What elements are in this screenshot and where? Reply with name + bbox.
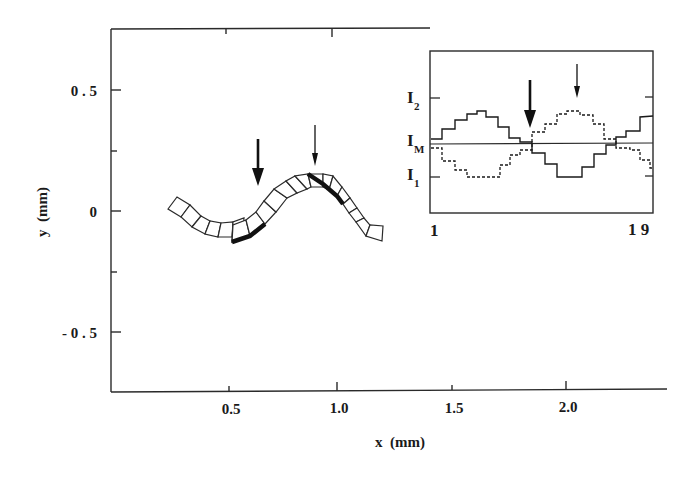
x-axis-line [111, 389, 667, 392]
top-border-line [111, 28, 430, 29]
segment-chain [168, 174, 383, 242]
inset-x-end-label: 1 9 [628, 220, 649, 239]
thick-arrow-head-icon [252, 168, 264, 186]
x-tick-label-2.0: 2.0 [559, 399, 578, 415]
x-tick-label-1.5: 1.5 [445, 400, 464, 416]
inset-label-IM: I [407, 131, 414, 150]
y-tick-label-0.5: 0 . 5 [71, 83, 97, 99]
segment [366, 225, 383, 241]
segment [218, 222, 233, 237]
y-tick-label-0: 0 [90, 204, 98, 220]
inset-label-I2-sub: 2 [414, 100, 420, 112]
inset-label-I2: I [407, 88, 414, 107]
inset-plot: I 2 I M I 1 1 1 9 [407, 51, 653, 240]
x-tick-label-0.5: 0.5 [222, 401, 241, 417]
thin-arrow-head-icon [312, 153, 318, 166]
inset-label-I1: I [407, 165, 414, 184]
x-tick-label-1.0: 1.0 [330, 400, 349, 416]
x-axis-title: x (mm) [375, 434, 425, 451]
figure: 0 . 5 0 - 0 . 5 0.5 1.0 1.5 2.0 x (mm) y… [0, 0, 691, 477]
y-tick-label--0.5: - 0 . 5 [62, 325, 97, 341]
inset-frame [430, 51, 653, 213]
inset-label-IM-sub: M [414, 143, 425, 155]
y-axis-title: y (mm) [34, 187, 51, 237]
inset-label-I1-sub: 1 [414, 177, 420, 189]
inset-x-start-label: 1 [430, 221, 439, 240]
